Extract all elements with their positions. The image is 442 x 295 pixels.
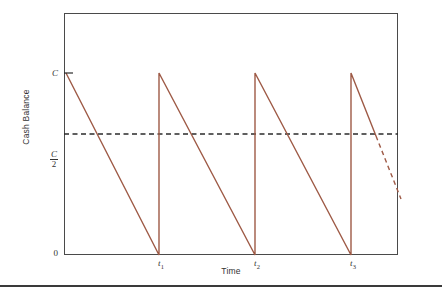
fraction-c-over-2: C 2 [50, 150, 58, 169]
y-tick-label-c: C [36, 68, 58, 78]
y-axis-label: Cash Balance [21, 47, 31, 187]
y-tick-label-c-over-2: C 2 [36, 150, 58, 169]
fraction-denominator: 2 [50, 160, 58, 169]
footer-divider [0, 285, 442, 287]
figure-container: Cash Balance C C 2 0 t1 t2 t3 Time [0, 0, 442, 295]
x-axis-label: Time [64, 266, 398, 276]
chart-plot-area [64, 13, 398, 255]
y-tick-label-zero: 0 [36, 248, 58, 258]
cash-balance-continuation-dashed [376, 136, 401, 199]
cash-balance-sawtooth-line [66, 73, 376, 255]
